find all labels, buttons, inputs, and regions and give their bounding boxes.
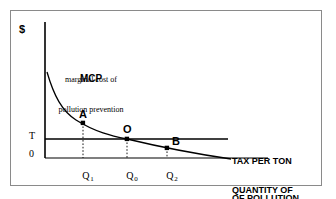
x-tick-q0: Q0 xyxy=(114,160,140,192)
point-label-b: B xyxy=(172,136,180,148)
point-label-a: A xyxy=(79,109,87,121)
x-tick-q2: Q2 xyxy=(154,160,180,192)
tax-level-axis-label: T xyxy=(29,131,35,142)
x-tick-q0-sub: 0 xyxy=(133,175,138,183)
x-tick-q2-sub: 2 xyxy=(173,175,178,183)
point-marker-o xyxy=(125,137,129,141)
point-label-o: O xyxy=(123,124,132,136)
x-axis-title: QUANTITY OF POLLUTION EMITTED xyxy=(232,160,326,199)
x-tick-q1: Q1 xyxy=(70,160,96,192)
mcp-annotation-line-2: pollution prevention xyxy=(43,105,139,115)
y-axis-label: $ xyxy=(19,24,25,36)
point-marker-b xyxy=(165,146,169,150)
mcp-curve-label: MCP xyxy=(43,74,139,85)
origin-axis-label: 0 xyxy=(29,149,34,160)
x-axis-title-line-1: QUANTITY OF xyxy=(232,184,326,196)
x-tick-q1-sub: 1 xyxy=(89,175,94,183)
pollution-tax-diagram: $ T 0 marginal cost of pollution prevent… xyxy=(0,0,336,199)
